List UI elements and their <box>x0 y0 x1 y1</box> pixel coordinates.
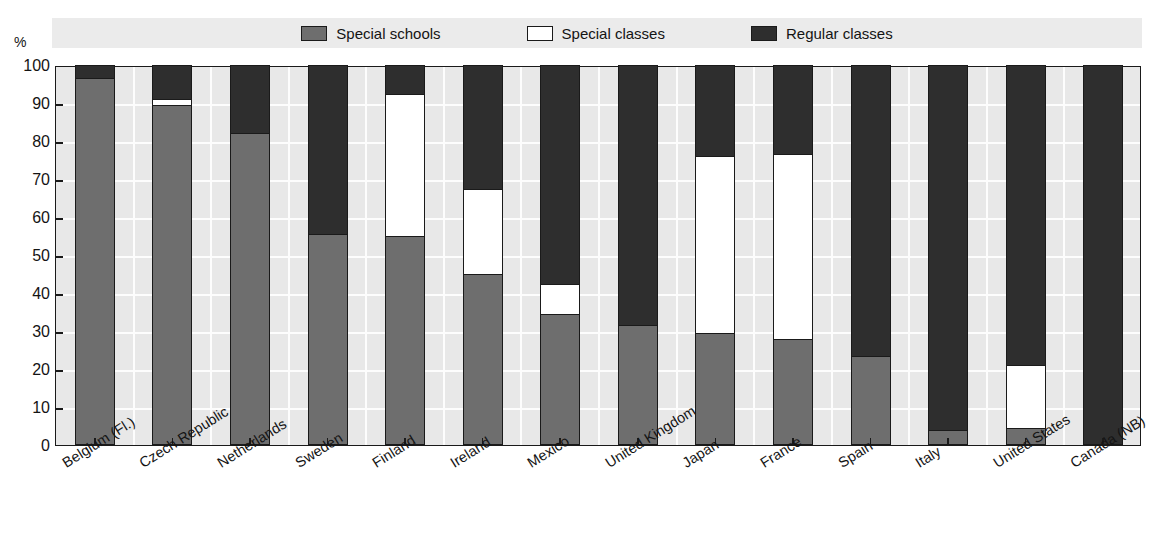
bar-segment-regular-classes <box>773 65 813 154</box>
bar-segment-special-schools <box>75 78 115 445</box>
legend-item-special-schools: Special schools <box>301 26 440 41</box>
x-axis-tick-mark <box>94 438 96 445</box>
bar-belgium-fl[interactable] <box>75 65 115 445</box>
x-axis-tick-mark <box>327 438 329 445</box>
x-axis-tick-mark <box>792 438 794 445</box>
y-axis-tick-mark <box>56 294 63 296</box>
bar-segment-regular-classes <box>385 65 425 94</box>
bar-segment-special-schools <box>773 339 813 445</box>
legend-item-special-classes: Special classes <box>527 26 665 41</box>
y-axis-tick-label-20: 20 <box>4 362 50 378</box>
gridline-vertical <box>908 67 910 445</box>
bar-segment-regular-classes <box>1083 65 1123 445</box>
y-axis-tick-label-60: 60 <box>4 210 50 226</box>
y-axis-tick-label-70: 70 <box>4 172 50 188</box>
x-axis-tick-label-italy: Italy <box>913 444 943 470</box>
legend-label-special-schools: Special schools <box>336 26 440 41</box>
bar-sweden[interactable] <box>308 65 348 445</box>
y-axis-tick-label-80: 80 <box>4 134 50 150</box>
y-axis-tick-label-50: 50 <box>4 248 50 264</box>
x-axis-tick-mark <box>172 438 174 445</box>
bar-segment-regular-classes <box>851 65 891 356</box>
legend-swatch-special-classes-icon <box>527 26 553 41</box>
y-axis-tick-label-100: 100 <box>4 58 50 74</box>
bar-segment-special-schools <box>851 356 891 445</box>
gridline-vertical <box>598 67 600 445</box>
gridline-vertical <box>210 67 212 445</box>
bar-segment-special-schools <box>618 325 658 445</box>
y-axis-tick-mark <box>56 256 63 258</box>
gridline-vertical <box>365 67 367 445</box>
y-axis-tick-label-90: 90 <box>4 96 50 112</box>
x-axis-tick-mark <box>482 438 484 445</box>
bar-segment-regular-classes <box>463 65 503 189</box>
bar-segment-regular-classes <box>152 65 192 99</box>
x-axis-tick-mark <box>870 438 872 445</box>
y-axis-tick-labels: 0102030405060708090100 <box>0 0 50 555</box>
legend-item-regular-classes: Regular classes <box>751 26 893 41</box>
bar-segment-regular-classes <box>695 65 735 156</box>
bar-segment-regular-classes <box>928 65 968 430</box>
y-axis-tick-mark <box>56 332 63 334</box>
x-axis-tick-mark <box>1102 438 1104 445</box>
bar-segment-special-classes <box>1006 365 1046 428</box>
chart-legend: Special schools Special classes Regular … <box>52 18 1142 48</box>
x-axis-tick-mark <box>1025 438 1027 445</box>
bar-segment-special-schools <box>463 274 503 445</box>
legend-swatch-special-schools-icon <box>301 26 327 41</box>
bar-segment-special-schools <box>385 236 425 445</box>
bar-segment-special-classes <box>773 154 813 338</box>
x-axis-tick-mark <box>249 438 251 445</box>
x-axis-tick-mark <box>637 438 639 445</box>
bar-united-kingdom[interactable] <box>618 65 658 445</box>
bar-segment-regular-classes <box>230 65 270 133</box>
bar-segment-special-classes <box>463 189 503 275</box>
bar-segment-regular-classes <box>618 65 658 325</box>
gridline-vertical <box>753 67 755 445</box>
x-axis-tick-mark <box>559 438 561 445</box>
legend-swatch-regular-classes-icon <box>751 26 777 41</box>
bar-czech-republic[interactable] <box>152 65 192 445</box>
bar-ireland[interactable] <box>463 65 503 445</box>
plot-area <box>55 66 1141 446</box>
y-axis-tick-mark <box>56 180 63 182</box>
bar-mexico[interactable] <box>540 65 580 445</box>
gridline-vertical <box>288 67 290 445</box>
bar-france[interactable] <box>773 65 813 445</box>
y-axis-tick-mark <box>56 370 63 372</box>
bar-segment-special-schools <box>230 133 270 445</box>
chart-page: Special schools Special classes Regular … <box>0 0 1153 555</box>
legend-label-regular-classes: Regular classes <box>786 26 893 41</box>
bar-segment-special-schools <box>308 234 348 445</box>
bar-segment-special-classes <box>540 284 580 314</box>
bar-spain[interactable] <box>851 65 891 445</box>
bar-italy[interactable] <box>928 65 968 445</box>
bar-canada-nb[interactable] <box>1083 65 1123 445</box>
bar-united-states[interactable] <box>1006 65 1046 445</box>
bar-segment-special-classes <box>385 94 425 237</box>
x-axis-tick-mark <box>404 438 406 445</box>
gridline-vertical <box>133 67 135 445</box>
gridline-vertical <box>986 67 988 445</box>
bar-finland[interactable] <box>385 65 425 445</box>
bar-segment-regular-classes <box>308 65 348 234</box>
gridline-vertical <box>831 67 833 445</box>
y-axis-tick-mark <box>56 408 63 410</box>
bar-segment-special-classes <box>152 99 192 105</box>
y-axis-tick-label-10: 10 <box>4 400 50 416</box>
bar-segment-regular-classes <box>540 65 580 284</box>
gridline-vertical <box>676 67 678 445</box>
y-axis-tick-label-40: 40 <box>4 286 50 302</box>
y-axis-tick-mark <box>56 104 63 106</box>
y-axis-tick-label-0: 0 <box>4 438 50 454</box>
x-axis-tick-mark <box>947 438 949 445</box>
gridline-vertical <box>520 67 522 445</box>
bar-segment-special-schools <box>695 333 735 445</box>
x-axis-tick-mark <box>715 438 717 445</box>
legend-label-special-classes: Special classes <box>562 26 665 41</box>
y-axis-tick-mark <box>56 142 63 144</box>
bar-japan[interactable] <box>695 65 735 445</box>
bar-segment-special-classes <box>695 156 735 333</box>
gridline-vertical <box>1063 67 1065 445</box>
bar-netherlands[interactable] <box>230 65 270 445</box>
